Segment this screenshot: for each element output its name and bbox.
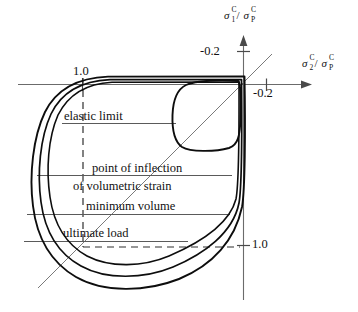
x-axis-label-num-sub: 2 [310,64,314,72]
y-axis-label-num-sub: 1 [232,16,236,24]
stress-locus-figure: σ1C/σPC σ2C/σPC -0.2 -0.2 1.0 1.0 elasti… [0,0,358,312]
x-axis-label: σ2C/σPC [302,58,327,69]
y-axis-label-den-sup: C [251,6,256,14]
y-axis-label: σ1C/σPC [224,10,249,21]
annotation-of-volumetric-strain: of volumetric strain [73,180,172,193]
y-axis-label-den-sub: P [251,16,255,24]
figure-canvas [0,0,358,312]
y-tick-label-neg02: -0.2 [200,45,220,58]
annotation-minimum-volume: minimum volume [86,200,175,213]
y-axis-label-num-sup: C [232,6,237,14]
x-axis-arrow-icon [301,81,312,89]
annotation-point-of-inflection: point of inflection [92,162,182,175]
x-axis-label-den-sub: P [329,64,333,72]
x-tick-label-neg02: -0.2 [253,87,273,100]
y-tick-label-10: 1.0 [252,238,268,251]
x-axis-label-num-sup: C [310,54,315,62]
x-axis-label-den-sup: C [329,54,334,62]
annotation-elastic-limit: elastic limit [64,110,123,123]
locus-elastic-limit [172,80,240,151]
y-axis-arrow-icon [240,35,248,46]
annotation-ultimate-load: ultimate load [63,227,129,240]
x-tick-label-10: 1.0 [73,65,89,78]
